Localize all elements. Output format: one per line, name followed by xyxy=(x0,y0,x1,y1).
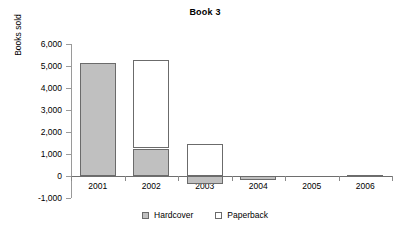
y-axis-tick-mark xyxy=(66,88,71,89)
bar-segment xyxy=(187,176,223,184)
x-axis-tick-label: 2006 xyxy=(337,181,393,191)
chart-legend: Hardcover Paperback xyxy=(0,210,410,220)
legend-swatch-hardcover-icon xyxy=(142,212,149,219)
y-axis-tick-label: 4,000 xyxy=(18,84,62,93)
y-axis-tick-label: 3,000 xyxy=(18,106,62,115)
y-axis-tick-mark xyxy=(66,154,71,155)
bar-segment xyxy=(187,144,223,176)
y-axis-tick-label: 5,000 xyxy=(18,62,62,71)
x-axis-tick-label: 2005 xyxy=(284,181,340,191)
y-axis-tick-label: 2,000 xyxy=(18,128,62,137)
legend-item-hardcover: Hardcover xyxy=(142,210,193,220)
bar-segment xyxy=(80,63,116,176)
bar-segment xyxy=(133,60,169,148)
y-axis-tick-label: -1,000 xyxy=(18,194,62,203)
legend-label-paperback: Paperback xyxy=(227,210,268,220)
y-axis-tick-label: 0 xyxy=(18,172,62,181)
bar-segment xyxy=(133,149,169,177)
x-axis-tick-label: 2002 xyxy=(123,181,179,191)
y-axis-tick-mark xyxy=(66,66,71,67)
x-axis-tick-label: 2004 xyxy=(230,181,286,191)
y-axis-line xyxy=(71,44,72,198)
y-axis-tick-mark xyxy=(66,44,71,45)
legend-label-hardcover: Hardcover xyxy=(154,210,193,220)
bar-segment xyxy=(240,176,276,180)
legend-item-paperback: Paperback xyxy=(215,210,268,220)
x-axis-tick-label: 2001 xyxy=(70,181,126,191)
y-axis-tick-mark xyxy=(66,198,71,199)
y-axis-tick-label: 6,000 xyxy=(18,40,62,49)
chart-container: Book 3 Books sold 6,0005,0004,0003,0002,… xyxy=(0,0,410,239)
legend-swatch-paperback-icon xyxy=(215,212,222,219)
y-axis-tick-mark xyxy=(66,132,71,133)
chart-title: Book 3 xyxy=(0,7,410,17)
y-axis-tick-label: 1,000 xyxy=(18,150,62,159)
y-axis-tick-mark xyxy=(66,110,71,111)
bar-segment xyxy=(347,175,383,177)
